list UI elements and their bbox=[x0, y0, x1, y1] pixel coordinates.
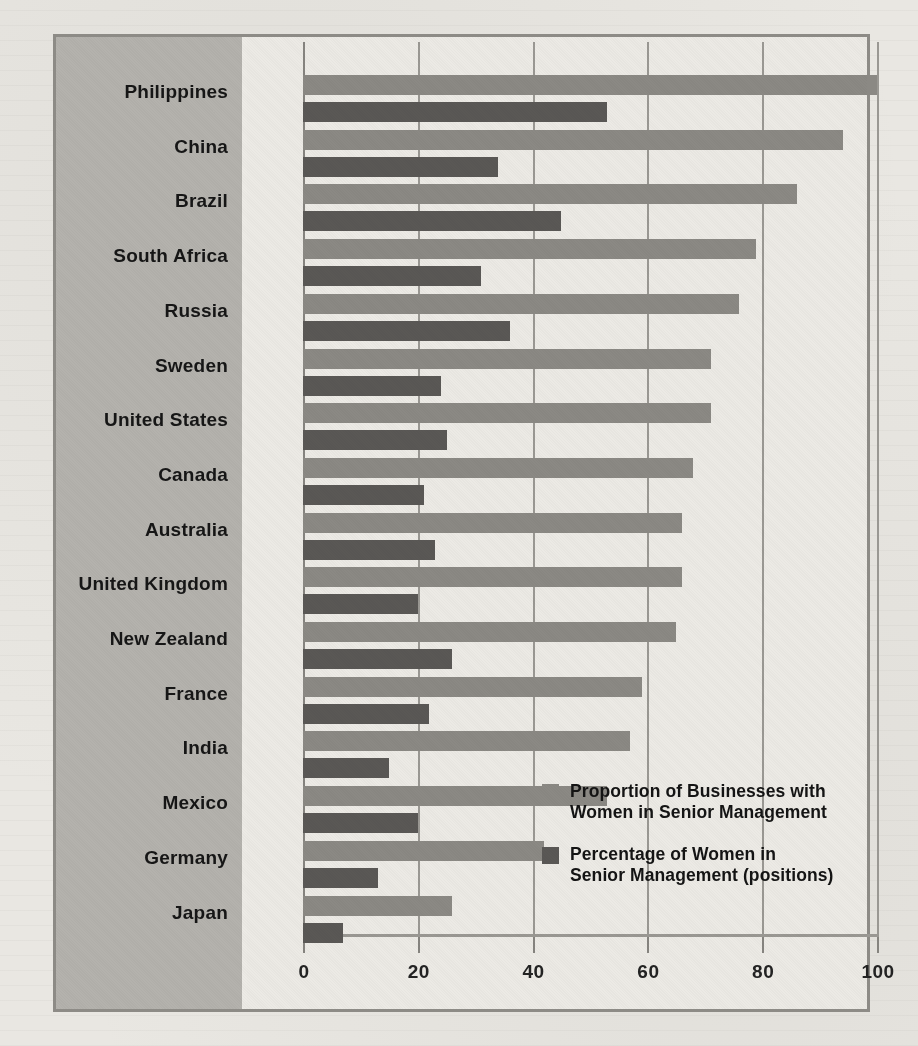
bar-percentage-women bbox=[303, 758, 389, 778]
category-label: South Africa bbox=[113, 245, 228, 267]
bar-percentage-women bbox=[303, 649, 452, 669]
category-label: Sweden bbox=[155, 355, 228, 377]
category-label: Brazil bbox=[175, 190, 228, 212]
bar-percentage-women bbox=[303, 266, 481, 286]
bar-percentage-women bbox=[303, 594, 418, 614]
bar-percentage-women bbox=[303, 923, 343, 943]
legend-item: Percentage of Women in Senior Management… bbox=[542, 844, 842, 887]
bar-proportion-businesses bbox=[303, 458, 693, 478]
legend-swatch-dark bbox=[542, 847, 559, 864]
bar-percentage-women bbox=[303, 321, 510, 341]
category-label: Philippines bbox=[124, 81, 228, 103]
plot-area: 020406080100 Proportion of Businesses wi… bbox=[247, 37, 867, 1009]
legend-label-line2: Women in Senior Management bbox=[570, 802, 827, 823]
category-label-panel: PhilippinesChinaBrazilSouth AfricaRussia… bbox=[56, 37, 242, 1009]
category-label: France bbox=[164, 683, 228, 705]
bar-proportion-businesses bbox=[303, 567, 682, 587]
bar-percentage-women bbox=[303, 430, 447, 450]
bar-proportion-businesses bbox=[303, 130, 843, 150]
legend-item: Proportion of Businesses with Women in S… bbox=[542, 781, 842, 824]
bar-percentage-women bbox=[303, 376, 441, 396]
bar-percentage-women bbox=[303, 813, 418, 833]
legend-swatch-light bbox=[542, 784, 559, 801]
category-label: Japan bbox=[172, 902, 228, 924]
category-label: China bbox=[174, 136, 228, 158]
bar-percentage-women bbox=[303, 868, 378, 888]
legend-label-line1: Proportion of Businesses with bbox=[570, 781, 827, 802]
bar-proportion-businesses bbox=[303, 513, 682, 533]
bar-proportion-businesses bbox=[303, 403, 711, 423]
legend-label: Proportion of Businesses with Women in S… bbox=[570, 781, 827, 824]
category-label: New Zealand bbox=[110, 628, 228, 650]
legend-label: Percentage of Women in Senior Management… bbox=[570, 844, 833, 887]
bar-percentage-women bbox=[303, 102, 607, 122]
chart-legend: Proportion of Businesses with Women in S… bbox=[542, 781, 842, 906]
bar-percentage-women bbox=[303, 211, 561, 231]
bar-proportion-businesses bbox=[303, 75, 877, 95]
legend-label-line1: Percentage of Women in bbox=[570, 844, 833, 865]
category-label: Australia bbox=[145, 519, 228, 541]
bar-proportion-businesses bbox=[303, 184, 797, 204]
bar-percentage-women bbox=[303, 540, 435, 560]
bar-proportion-businesses bbox=[303, 677, 642, 697]
bar-proportion-businesses bbox=[303, 349, 711, 369]
bar-proportion-businesses bbox=[303, 294, 739, 314]
bar-percentage-women bbox=[303, 157, 498, 177]
category-label: India bbox=[183, 737, 228, 759]
category-label: Germany bbox=[144, 847, 228, 869]
bar-proportion-businesses bbox=[303, 622, 676, 642]
category-label: Canada bbox=[158, 464, 228, 486]
bar-proportion-businesses bbox=[303, 896, 452, 916]
category-label: Mexico bbox=[162, 792, 228, 814]
legend-label-line2: Senior Management (positions) bbox=[570, 865, 833, 886]
bar-proportion-businesses bbox=[303, 731, 630, 751]
bar-percentage-women bbox=[303, 485, 424, 505]
bar-proportion-businesses bbox=[303, 239, 756, 259]
category-label: United States bbox=[104, 409, 228, 431]
category-label: United Kingdom bbox=[78, 573, 228, 595]
bar-proportion-businesses bbox=[303, 841, 544, 861]
tick-100 bbox=[877, 937, 879, 953]
category-label: Russia bbox=[164, 300, 228, 322]
bar-percentage-women bbox=[303, 704, 429, 724]
gridline-100 bbox=[877, 42, 879, 937]
chart-figure: PhilippinesChinaBrazilSouth AfricaRussia… bbox=[53, 34, 870, 1012]
